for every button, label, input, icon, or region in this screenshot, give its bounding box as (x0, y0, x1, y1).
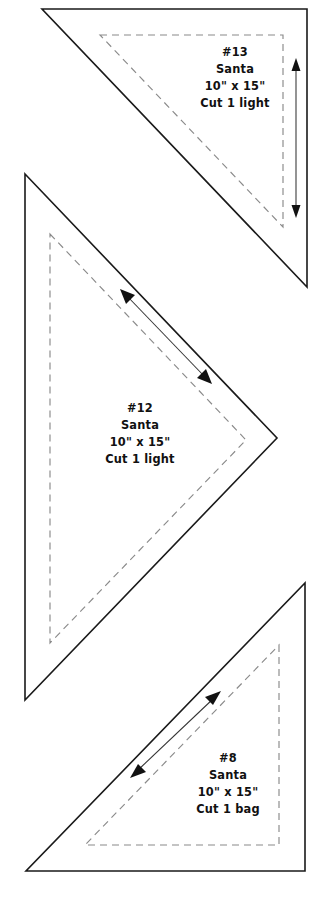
template-canvas: #13 Santa 10" x 15" Cut 1 light #12 Sant… (0, 0, 329, 900)
piece-13-grain-arrow (292, 58, 301, 218)
piece-8-label-instruction: Cut 1 bag (196, 802, 260, 816)
piece-12-group[interactable]: #12 Santa 10" x 15" Cut 1 light (25, 174, 277, 700)
piece-8-group[interactable]: #8 Santa 10" x 15" Cut 1 bag (26, 583, 305, 871)
piece-8-cut-line (26, 583, 305, 871)
piece-13-group[interactable]: #13 Santa 10" x 15" Cut 1 light (42, 9, 307, 287)
piece-13-label-size: 10" x 15" (205, 79, 266, 93)
piece-8-label-size: 10" x 15" (198, 785, 259, 799)
piece-13-label-instruction: Cut 1 light (200, 96, 270, 110)
piece-13-seam-line (100, 35, 283, 227)
piece-8-label-number: #8 (219, 751, 237, 765)
piece-12-label-size: 10" x 15" (110, 435, 171, 449)
piece-12-grain-arrow (120, 289, 212, 384)
piece-12-label-instruction: Cut 1 light (105, 452, 175, 466)
piece-13-label: #13 Santa 10" x 15" Cut 1 light (200, 45, 270, 110)
piece-8-label-name: Santa (209, 768, 247, 782)
piece-8-label: #8 Santa 10" x 15" Cut 1 bag (196, 751, 260, 816)
piece-8-grain-arrow (130, 691, 221, 778)
piece-12-label-name: Santa (121, 418, 159, 432)
piece-13-label-name: Santa (216, 62, 254, 76)
piece-13-cut-line (42, 9, 307, 287)
piece-12-label-number: #12 (127, 401, 153, 415)
piece-12-label: #12 Santa 10" x 15" Cut 1 light (105, 401, 175, 466)
pattern-template-sheet: #13 Santa 10" x 15" Cut 1 light #12 Sant… (0, 0, 329, 900)
piece-13-label-number: #13 (222, 45, 248, 59)
